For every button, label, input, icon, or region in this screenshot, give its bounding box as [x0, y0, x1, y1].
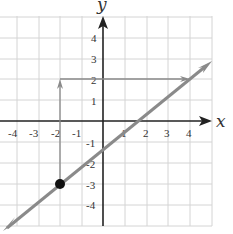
graph-line	[7, 66, 206, 228]
x-tick-labels: -4 -3 -2 -1 1 2 3 4	[8, 127, 192, 139]
y-tick-label: 2	[91, 74, 97, 86]
y-tick-label: 4	[91, 32, 97, 44]
point-marker	[55, 179, 65, 189]
x-tick-label: -3	[29, 127, 39, 139]
x-tick-label: 4	[186, 127, 192, 139]
coordinate-graph: x y -4 -3 -2 -1 1 2 3 4 4 3 2 1 -1 -2 -3…	[0, 0, 233, 234]
x-tick-label: 3	[164, 127, 170, 139]
x-axis-label: x	[216, 111, 226, 131]
x-axis	[0, 116, 212, 126]
x-tick-label: -1	[72, 127, 81, 139]
y-tick-label: -1	[86, 137, 95, 149]
y-tick-label: 3	[91, 53, 97, 65]
y-tick-label: -3	[86, 179, 96, 191]
line-arrowhead-lower-icon	[3, 217, 17, 231]
y-tick-label: -4	[86, 199, 96, 211]
x-tick-label: 2	[143, 127, 149, 139]
x-tick-label: -2	[51, 127, 60, 139]
x-tick-label: -4	[8, 127, 18, 139]
y-axis-label: y	[96, 0, 107, 14]
y-tick-label: 1	[91, 95, 97, 107]
